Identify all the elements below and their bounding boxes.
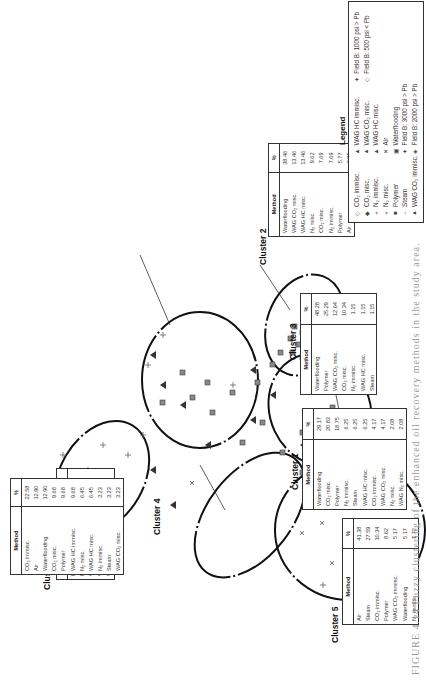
table-row: CO₂ immisc.22.58 (22, 479, 32, 574)
table-row: CO₂ immisc.10.34 (372, 519, 381, 624)
table-row: N₂ misc.6.45 (77, 479, 86, 574)
dot-diamond-icon: ◈ (411, 147, 418, 155)
plus-icon: + (373, 209, 379, 217)
table-row: WAG N₂ misc.2.08 (397, 409, 406, 509)
table-row: Polymer18.75 (332, 409, 341, 509)
table-row: N₂ immisc.1.15 (349, 294, 358, 394)
dash-icon: − (402, 209, 408, 217)
legend-item: ◈Field B: 2000 psi > Pb (410, 84, 420, 156)
cluster-3-table: Method% Waterflooding48.28 Polymer25.29 … (300, 293, 377, 395)
table-row: Waterflooding48.28 (312, 294, 322, 394)
pct-header: % (301, 294, 312, 325)
table-row: CO₂ immisc.4.17 (369, 409, 378, 509)
legend-item: ▲WAG CO₂ immisc. (410, 155, 420, 217)
table-row: WAG HC misc.13.46 (298, 144, 307, 236)
table-row: Waterflooding38.46 (280, 144, 290, 236)
pct-header: % (343, 519, 354, 549)
open-square-icon: ▣ (392, 147, 399, 155)
legend-item: ◇Field B: 500 psi < Pb (362, 12, 372, 84)
table-row: WAG HC misc.6.45 (86, 479, 95, 574)
open-diamond-icon: ◇ (363, 76, 370, 84)
table-row: WAG CO₂ misc.13.46 (289, 144, 298, 236)
legend-item: +N₂ immisc. (371, 155, 381, 217)
table-row: WAG HC misc.1.15 (358, 294, 367, 394)
figure-caption: FIGURE 4.14 Fuzzy clustering of the enha… (410, 242, 421, 675)
table-row: N₂ immisc.7.69 (326, 144, 335, 236)
cluster-2-table: Method% Waterflooding38.46 WAG CO₂ misc.… (268, 143, 355, 237)
star-diamond-icon: ✦ (353, 76, 360, 84)
legend-item: +N₂ misc. (381, 155, 391, 217)
triangle-dark-icon: ▲ (363, 147, 369, 155)
cluster-1-table: Method% Waterflooding29.17 CO₂ misc.20.8… (302, 408, 407, 510)
table-row: Air41.38 (354, 519, 364, 624)
open-diamond-icon: ◇ (353, 209, 360, 217)
legend-item: ▲WAG CO₂ misc. (362, 84, 372, 156)
triangle-dark-icon: ▲ (373, 147, 379, 155)
cluster-3-label: Cluster 3 (288, 324, 298, 360)
filled-square-icon: ■ (392, 209, 398, 217)
table-row: CO₂ misc.9.68 (50, 479, 59, 574)
triangle-icon: ▲ (411, 209, 417, 217)
table-row: N₂ immisc.3.23 (96, 479, 105, 574)
table-row: N₂ misc.2.08 (388, 409, 397, 509)
table-row: Polymer8.62 (382, 519, 391, 624)
legend-title: Legend (338, 117, 347, 145)
table-row: Steam27.59 (363, 519, 372, 624)
table-row: Steam3.23 (105, 479, 114, 574)
method-header: Method (343, 549, 354, 624)
legend-item: ✦Field B: 3000 psi > Pb (400, 84, 410, 156)
table-row: Air12.90 (31, 479, 40, 574)
table-row: Polymer9.68 (59, 479, 68, 574)
figure-canvas: Cluster 6 Method% N₂ misc.42.86 N₂ immis… (0, 0, 426, 685)
pct-header: % (303, 409, 314, 440)
table-row: Waterflooding5.17 (400, 519, 409, 624)
method-header: Method (11, 507, 22, 574)
triangle-icon: ▲ (354, 147, 360, 155)
table-row: WAG HC misc.6.25 (360, 409, 369, 509)
table-row: Steam6.25 (351, 409, 360, 509)
cluster-2-arrow (140, 255, 170, 325)
legend-item: −Steam (400, 155, 410, 217)
legend-item: ■Polymer (390, 155, 400, 217)
table-row: WAG CO₂ misc.4.17 (378, 409, 387, 509)
table-row: Polymer5.77 (335, 144, 344, 236)
x-mark-icon: ✕ (382, 147, 389, 155)
legend-item: ▣Waterflooding (390, 84, 400, 156)
method-header: Method (303, 440, 314, 509)
filled-diamond-icon: ◆ (363, 209, 370, 217)
cluster-4-label: Cluster 4 (152, 499, 162, 535)
cluster-1-label: Cluster 1 (290, 454, 300, 490)
light-plus-icon: + (383, 209, 389, 217)
method-header: Method (269, 172, 280, 236)
legend-item: ▲WAG HC immisc. (352, 84, 362, 156)
method-header: Method (301, 325, 312, 394)
star-diamond-icon: ✦ (401, 147, 408, 155)
table-row: Waterflooding12.90 (40, 479, 49, 574)
cluster-4-arrow (200, 465, 225, 510)
legend-item: ✦Field B: 1000 psi > Pb (352, 12, 362, 84)
table-row: Polymer25.29 (321, 294, 330, 394)
legend-item: ▲WAG HC misc. (371, 84, 381, 156)
cluster-2-label: Cluster 2 (258, 229, 268, 265)
table-row: WAG CO₂ immisc.5.17 (391, 519, 400, 624)
pct-header: % (269, 144, 280, 172)
table-row: WAG CO₂ misc.3.23 (114, 479, 123, 574)
pct-header: % (11, 479, 22, 507)
table-row: WAG HC immisc.9.68 (68, 479, 77, 574)
cluster-2-ellipse (142, 312, 258, 448)
table-row: CO₂ misc.7.69 (317, 144, 326, 236)
table-row: CO₂ misc.10.34 (340, 294, 349, 394)
table-row: Waterflooding29.17 (314, 409, 324, 509)
table-row: N₂ immisc.6.25 (342, 409, 351, 509)
legend-item: ◆CO₂ misc. (362, 155, 372, 217)
legend-box: ◇CO₂ immisc. ◆CO₂ misc. +N₂ immisc. +N₂ … (348, 1, 424, 223)
cluster-5-table: Method% Air41.38 Steam27.59 CO₂ immisc.1… (342, 518, 419, 625)
legend-item: ◇CO₂ immisc. (352, 155, 362, 217)
table-row: WAG CO₂ misc.12.64 (330, 294, 339, 394)
legend-item: ✕Air (381, 84, 391, 156)
table-row: N₂ misc.9.62 (308, 144, 317, 236)
cluster-5-label: Cluster 5 (330, 607, 340, 643)
cluster-4-table: Method% CO₂ immisc.22.58 Air12.90 Waterf… (10, 478, 124, 575)
table-row: Steam1.15 (367, 294, 376, 394)
triangle-points (150, 351, 306, 509)
